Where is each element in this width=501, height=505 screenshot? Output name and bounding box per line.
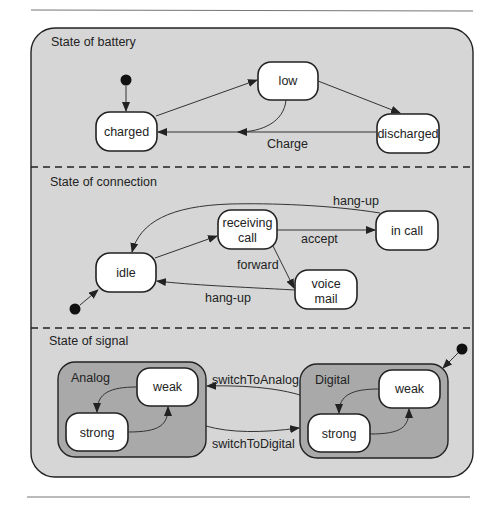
state-charged-label: charged xyxy=(104,125,149,139)
top-rule xyxy=(31,10,473,11)
state-voice-mail-label-2: mail xyxy=(315,292,338,306)
composite-digital-title: Digital xyxy=(315,373,350,387)
transition-label-accept: accept xyxy=(301,232,338,246)
state-in-call-label: in call xyxy=(391,224,423,238)
initial-state-connection xyxy=(70,304,81,315)
transition-label-hangup-top: hang-up xyxy=(333,194,379,208)
state-machine-diagram: State of battery charged low discharged … xyxy=(0,0,501,505)
state-low-label: low xyxy=(279,74,299,88)
region-title-connection: State of connection xyxy=(50,175,157,189)
transition-label-charge: Charge xyxy=(267,137,308,151)
transition-label-switch-to-digital: switchToDigital xyxy=(212,437,295,451)
state-digital-weak-label: weak xyxy=(394,382,425,396)
state-analog-strong-label: strong xyxy=(80,426,115,440)
state-discharged-label: discharged xyxy=(377,127,438,141)
transition-label-forward: forward xyxy=(237,258,279,272)
initial-state-signal xyxy=(457,344,468,355)
state-receiving-call-label-1: receiving xyxy=(222,216,272,230)
composite-analog-title: Analog xyxy=(71,371,110,385)
transition-label-switch-to-analog: switchToAnalog xyxy=(212,373,299,387)
region-title-signal: State of signal xyxy=(49,334,128,348)
state-digital-strong-label: strong xyxy=(322,427,357,441)
transition-label-hangup-bottom: hang-up xyxy=(205,291,251,305)
state-receiving-call-label-2: call xyxy=(238,231,257,245)
state-voice-mail-label-1: voice xyxy=(311,277,340,291)
region-title-battery: State of battery xyxy=(51,35,137,49)
initial-state-battery xyxy=(121,75,132,86)
state-idle-label: idle xyxy=(116,266,136,280)
state-analog-weak-label: weak xyxy=(152,380,183,394)
